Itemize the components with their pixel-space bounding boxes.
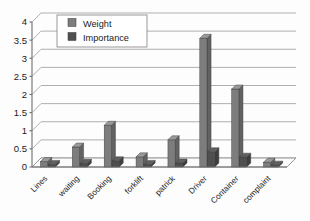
bar-front-face xyxy=(200,38,207,167)
x-axis-tick-label: Driver xyxy=(187,174,209,196)
x-axis-tick-label: patrick xyxy=(153,173,177,197)
y-axis-tick-label: 1 xyxy=(22,125,27,136)
x-axis-tick-label: Lines xyxy=(29,174,49,194)
gridline xyxy=(32,49,296,58)
bar-side-face xyxy=(207,34,211,167)
y-axis-tick-label: 0.5 xyxy=(14,143,27,154)
bar xyxy=(239,153,250,167)
bar-front-face xyxy=(239,157,246,167)
bar xyxy=(200,34,211,167)
y-axis-tick-label: 3 xyxy=(22,53,27,64)
bar-front-face xyxy=(208,152,215,167)
y-axis-tick-label: 2.5 xyxy=(14,71,27,82)
y-axis-tick-label: 3.5 xyxy=(14,35,27,46)
gridline xyxy=(32,86,296,95)
bar-chart: 00.511.522.533.54 LineswaitingBookingfor… xyxy=(0,0,310,221)
bar-front-face xyxy=(136,157,143,167)
bar xyxy=(208,148,219,167)
legend-label: Importance xyxy=(83,33,129,43)
bar-front-face xyxy=(168,140,175,167)
y-axis-tick-label: 1.5 xyxy=(14,107,27,118)
floor-plane xyxy=(32,158,296,167)
y-axis: 00.511.522.533.54 xyxy=(14,16,32,172)
y-axis-tick-label: 2 xyxy=(22,89,27,100)
bar-front-face xyxy=(40,162,47,167)
x-axis-labels: LineswaitingBookingforkliftpatrickDriver… xyxy=(29,173,273,205)
chart-legend: WeightImportance xyxy=(57,15,147,47)
x-axis-tick-label: waiting xyxy=(56,174,81,199)
y-axis-tick-label: 0 xyxy=(22,161,27,172)
x-axis-tick-label: complaint xyxy=(241,174,273,206)
gridline xyxy=(32,104,296,113)
chart-floor xyxy=(32,158,296,167)
bars-layer xyxy=(40,34,282,167)
y-axis-tick-label: 4 xyxy=(22,16,27,27)
x-axis-tick-label: Booking xyxy=(86,174,114,202)
chart-canvas: 00.511.522.533.54 LineswaitingBookingfor… xyxy=(0,0,310,221)
x-axis-tick-label: Container xyxy=(209,174,241,206)
legend-swatch xyxy=(68,33,76,41)
bar-front-face xyxy=(72,147,79,167)
bar-front-face xyxy=(264,162,271,167)
legend-swatch xyxy=(68,19,76,27)
legend-label: Weight xyxy=(83,19,112,29)
bar-front-face xyxy=(104,125,111,167)
bar-front-face xyxy=(176,163,183,167)
bar-front-face xyxy=(232,89,239,167)
bar xyxy=(232,85,243,167)
gridline xyxy=(32,140,296,149)
bar-front-face xyxy=(112,161,119,167)
gridline xyxy=(32,122,296,131)
x-axis-tick-label: forklift xyxy=(123,174,145,196)
gridline xyxy=(32,67,296,76)
